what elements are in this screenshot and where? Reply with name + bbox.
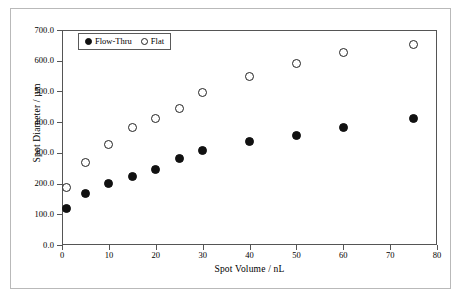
x-axis-tick-label: 80 (417, 250, 457, 260)
legend-entry-flow-thru: Flow-Thru (85, 36, 132, 46)
x-axis-tick-label: 20 (136, 250, 176, 260)
legend-label-flat: Flat (151, 36, 164, 46)
y-axis-tick (57, 91, 62, 92)
y-axis-tick (57, 61, 62, 62)
open-circle-icon (141, 38, 148, 45)
legend-label-flow-thru: Flow-Thru (95, 36, 132, 46)
y-axis-tick (57, 184, 62, 185)
x-axis-tick-label: 60 (323, 250, 363, 260)
y-axis-tick-label: 0.0 (14, 241, 54, 250)
plot-area (62, 30, 437, 245)
x-axis-tick-label: 70 (370, 250, 410, 260)
x-axis-tick-label: 10 (89, 250, 129, 260)
y-axis-tick (57, 30, 62, 31)
x-axis-tick-label: 50 (276, 250, 316, 260)
y-axis-tick (57, 122, 62, 123)
x-axis-tick-label: 40 (230, 250, 270, 260)
chart-legend: Flow-Thru Flat (78, 33, 171, 50)
chart-figure: 0.0100.0200.0300.0400.0500.0600.0700.001… (0, 0, 461, 304)
legend-entry-flat: Flat (141, 36, 164, 46)
y-axis-title: Spot Diameter / µm (32, 23, 42, 223)
filled-circle-icon (85, 38, 92, 45)
x-axis-title: Spot Volume / nL (62, 264, 437, 274)
y-axis-tick (57, 153, 62, 154)
x-axis-tick-label: 30 (183, 250, 223, 260)
x-axis-tick-label: 0 (42, 250, 82, 260)
y-axis-tick (57, 214, 62, 215)
y-axis-tick-label-wrap: 0.0 (10, 241, 54, 250)
